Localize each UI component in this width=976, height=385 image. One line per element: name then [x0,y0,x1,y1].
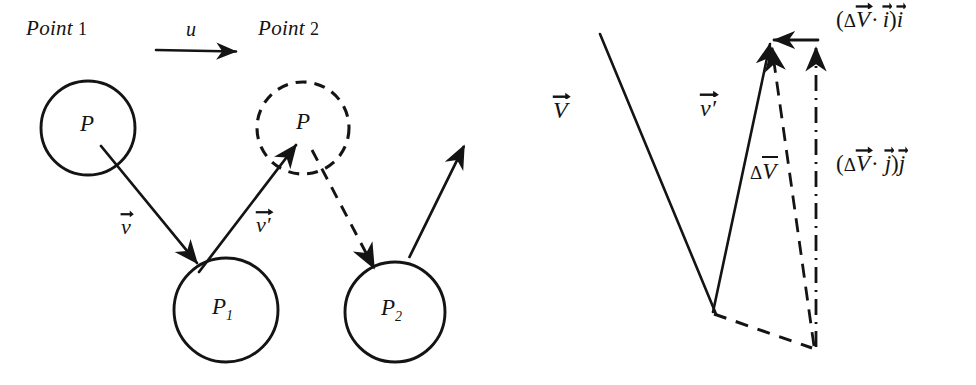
vector-prime: ′ [711,95,716,121]
delta-symbol: Δ [844,154,856,175]
diagram-canvas [0,0,976,385]
over-arrow-icon [120,209,134,216]
unit-vector-glyph: j [899,151,905,176]
vector-glyph: V [856,7,870,32]
point-1-header: Point1 [26,18,87,39]
delta-V-label: Δ V [750,160,776,183]
over-bar-icon [762,156,778,158]
unit-vector-glyph: i [897,7,903,32]
vector-v-line [101,146,197,263]
vector-glyph: v [700,95,711,121]
p-glyph-text: P [381,295,395,320]
p-glyph-subscript: 2 [395,309,402,324]
over-arrow-icon [552,91,571,99]
vector-accent-group: V [856,8,870,31]
unit-vector-accent-group: j [885,152,891,175]
right-diagram [600,34,818,348]
projection-i-label: (Δ V · i ) [836,8,903,31]
unit-vector-accent-group: i [883,8,889,31]
vector-v-prime-label: v′ [256,214,271,236]
p-glyph-text: P [80,111,94,136]
point-1-label: Point [26,16,73,40]
over-arrow-icon [855,145,873,153]
circle-P1-label: P1 [212,295,233,323]
unit-vector-glyph: i [883,7,889,32]
point-2-header: Point2 [258,18,319,39]
point-2-number: 2 [305,19,319,39]
vector-accent-group: v′ [700,96,716,120]
over-arrow-icon [896,1,906,9]
over-arrow-icon [898,145,908,153]
unit-vector-accent-group: i [897,8,903,31]
p-glyph-text: P [212,294,226,319]
p-glyph-subscript: 1 [226,308,233,323]
projection-j-label: (Δ V · j ) [836,152,905,175]
close-paren: ) [889,7,897,32]
over-arrow-icon [884,145,894,153]
unit-vector-accent-group: j [899,152,905,175]
vector-glyph: V [762,159,776,184]
vector-V-prime-label: v′ [700,96,716,120]
dot-product-operator: · [870,7,880,32]
p-glyph-text: P [296,109,310,134]
u-arrow [156,50,236,52]
vector-accent-group: v′ [256,214,271,236]
over-arrow-icon [699,89,719,97]
point-1-number: 1 [73,19,87,39]
circle-P-solid-label: P [80,112,94,135]
vector-v-dashed-line [312,150,374,268]
vector-V-line [600,34,716,314]
vector-glyph: V [856,151,870,176]
unit-vector-glyph: j [885,151,891,176]
close-paren: ) [891,151,899,176]
open-paren: ( [836,7,844,32]
vector-v-prime-line [199,145,296,272]
delta-V-line [772,48,814,346]
vector-accent-group: V [762,160,776,183]
vector-accent-group: V [856,152,870,175]
vector-V-extension-dashed [714,314,812,348]
vector-v-label: v [121,216,131,238]
delta-symbol: Δ [844,10,856,31]
vector-V-label: V [553,98,568,122]
circle-P2-label: P2 [381,296,402,324]
figure-root: Point1 Point2 u P P P1 P2 v [0,0,976,385]
vector-accent-group: v [121,216,131,238]
vector-glyph: V [553,97,568,123]
vector-glyph: v [256,212,266,237]
point-2-label: Point [258,16,305,40]
vector-prime: ′ [266,212,271,237]
circle-P-dashed-label: P [296,110,310,133]
vector-glyph: v [121,214,131,239]
over-arrow-icon [882,1,892,9]
over-arrow-icon [855,1,873,9]
vector-v-prime-dashed-line [409,146,464,258]
over-arrow-icon [255,207,274,214]
vector-accent-group: V [553,98,568,122]
open-paren: ( [836,151,844,176]
delta-symbol: Δ [750,162,762,183]
u-arrow-label: u [186,19,196,39]
dot-product-operator: · [870,151,880,176]
